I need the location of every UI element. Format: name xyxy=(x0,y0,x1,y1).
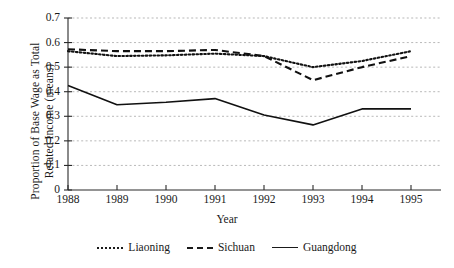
legend-item-guangdong[interactable]: Guangdong xyxy=(272,241,357,253)
legend-key-dashed-icon xyxy=(187,242,213,252)
legend-item-sichuan[interactable]: Sichuan xyxy=(187,241,255,253)
legend-label: Sichuan xyxy=(218,241,255,253)
x-tick-label: 1995 xyxy=(381,194,441,206)
legend-key-dotted-icon xyxy=(97,242,123,252)
chart-legend: LiaoningSichuanGuangdong xyxy=(0,241,454,253)
legend-label: Guangdong xyxy=(303,241,357,253)
legend-key-solid-icon xyxy=(272,242,298,252)
x-axis-label: Year xyxy=(0,213,454,225)
legend-item-liaoning[interactable]: Liaoning xyxy=(97,241,170,253)
x-axis-tick-labels: 19881989199019911992199319941995 xyxy=(0,0,454,268)
chart-figure: Proportion of Base Wage as Total Related… xyxy=(0,0,454,268)
legend-label: Liaoning xyxy=(128,241,170,253)
